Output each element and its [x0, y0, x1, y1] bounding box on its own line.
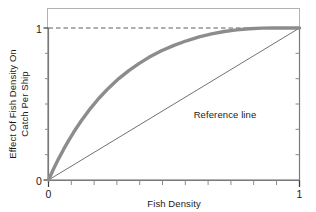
x-tick-label-0: 0	[46, 188, 52, 200]
chart-figure: 1 0 0 1 Fish Density Effect Of Fish Dens…	[0, 0, 316, 212]
y-tick-label-0: 0	[36, 175, 42, 187]
reference-line-label: Reference line	[194, 109, 257, 120]
y-axis-title-line2: Catch Per Ship	[19, 71, 30, 136]
right-axis-ticks	[295, 28, 300, 155]
x-tick-label-1: 1	[297, 188, 303, 200]
plot-frame	[48, 9, 300, 180]
x-axis-minor-ticks	[71, 181, 276, 186]
y-axis-title-line1: Effect Of Fish Density On	[7, 49, 18, 159]
y-tick-label-1: 1	[36, 23, 42, 35]
x-axis-title: Fish Density	[147, 198, 201, 209]
x-axis-major-ticks	[49, 181, 300, 188]
fish-density-response-chart: 1 0 0 1 Fish Density Effect Of Fish Dens…	[0, 0, 316, 212]
reference-line	[49, 28, 300, 180]
